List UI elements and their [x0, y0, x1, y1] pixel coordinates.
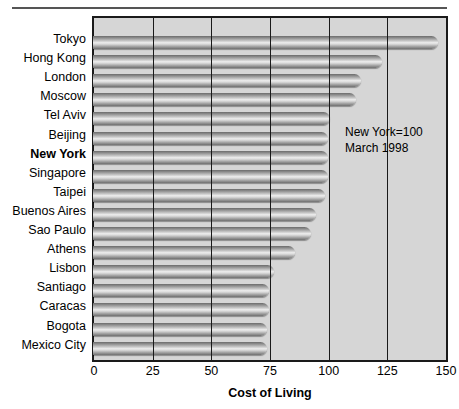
- plot-area: [92, 16, 448, 362]
- chart-root: TokyoHong KongLondonMoscowTel AvivBeijin…: [0, 0, 459, 409]
- bar-mexico-city: [93, 342, 267, 355]
- x-tick-0: 0: [91, 364, 98, 378]
- x-tick-25: 25: [146, 364, 160, 378]
- x-tick-150: 150: [436, 364, 457, 378]
- category-label-mexico-city: Mexico City: [0, 336, 86, 355]
- category-label-tel-aviv: Tel Aviv: [0, 106, 86, 125]
- gridline-100: [329, 18, 330, 360]
- chart-annotation: New York=100 March 1998: [345, 124, 423, 156]
- bar-athens: [93, 246, 295, 259]
- category-label-buenos-aires: Buenos Aires: [0, 202, 86, 221]
- bar-moscow: [93, 93, 356, 106]
- category-label-taipei: Taipei: [0, 183, 86, 202]
- category-label-singapore: Singapore: [0, 164, 86, 183]
- category-label-tokyo: Tokyo: [0, 30, 86, 49]
- bar-singapore: [93, 170, 328, 183]
- header-divider: [12, 7, 447, 9]
- category-label-hong-kong: Hong Kong: [0, 49, 86, 68]
- category-axis-labels: TokyoHong KongLondonMoscowTel AvivBeijin…: [0, 16, 86, 362]
- category-label-athens: Athens: [0, 240, 86, 259]
- bar-caracas: [93, 303, 269, 316]
- category-label-new-york: New York: [0, 145, 86, 164]
- bar-lisbon: [93, 265, 274, 278]
- x-tick-75: 75: [263, 364, 277, 378]
- bar-london: [93, 74, 361, 87]
- category-label-caracas: Caracas: [0, 297, 86, 316]
- annotation-line-2: March 1998: [345, 140, 423, 156]
- bar-sao-paulo: [93, 227, 311, 240]
- gridline-150: [446, 18, 447, 360]
- category-label-sao-paulo: Sao Paulo: [0, 221, 86, 240]
- gridline-75: [270, 18, 271, 360]
- bar-buenos-aires: [93, 208, 316, 221]
- category-label-london: London: [0, 68, 86, 87]
- category-label-moscow: Moscow: [0, 87, 86, 106]
- x-axis-title: Cost of Living: [92, 386, 448, 400]
- bar-beijing: [93, 132, 328, 145]
- annotation-line-1: New York=100: [345, 124, 423, 140]
- category-label-santiago: Santiago: [0, 278, 86, 297]
- x-tick-100: 100: [318, 364, 339, 378]
- bar-hong-kong: [93, 55, 382, 68]
- bar-tokyo: [93, 36, 438, 49]
- category-label-lisbon: Lisbon: [0, 259, 86, 278]
- category-label-bogota: Bogota: [0, 317, 86, 336]
- bar-bogota: [93, 323, 267, 336]
- x-tick-50: 50: [204, 364, 218, 378]
- bar-taipei: [93, 189, 325, 202]
- x-tick-125: 125: [377, 364, 398, 378]
- gridline-50: [211, 18, 212, 360]
- bar-new-york: [93, 151, 328, 164]
- category-label-beijing: Beijing: [0, 126, 86, 145]
- gridline-25: [153, 18, 154, 360]
- x-axis-tick-labels: 0255075100125150: [0, 364, 459, 382]
- bar-santiago: [93, 284, 269, 297]
- gridline-125: [387, 18, 388, 360]
